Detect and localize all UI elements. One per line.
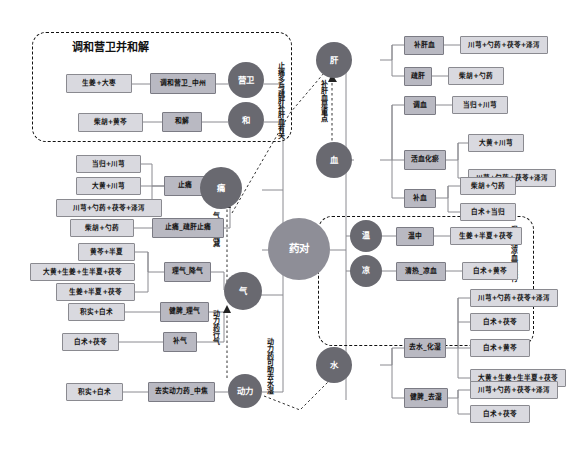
leaf-dahuang-chuanxiong-zhitong[interactable]: 大黄+川芎 [76, 177, 141, 195]
leaf-shengjiang-dazao[interactable]: 生姜+大枣 [66, 74, 132, 93]
leaf-baizhu-huangqin-qushui[interactable]: 白术+黄芩 [470, 339, 530, 357]
hub-gan[interactable]: 肝 [316, 42, 352, 78]
leaf-chaihu-shaoyao-shugan[interactable]: 柴胡+勺药 [70, 219, 134, 237]
leaf-chuanxiong-shaoyao-fuling-zexie-qushui[interactable]: 川芎+勺药+茯苓+泽泻 [470, 289, 558, 307]
hub-dongli[interactable]: 动力 [228, 374, 262, 408]
leaf-chaihu-shaoyao-buxue[interactable]: 柴胡+勺药 [460, 177, 516, 195]
func-buganxue[interactable]: 补肝血 [404, 36, 444, 55]
arrow-head-qi [223, 305, 231, 313]
func-huoxue-huayu[interactable]: 活血化瘀 [404, 150, 446, 170]
leaf-baizhu-fuling-buqi[interactable]: 白术+茯苓 [62, 333, 119, 351]
leaf-chuanxiong-shaoyao-fuling-zexie-zhitong[interactable]: 川芎+勺药+茯苓+泽泻 [56, 199, 162, 217]
annotation-qushuishi: 动力药可助去水湿 [266, 338, 273, 424]
hub-qi[interactable]: 气 [224, 272, 262, 310]
annotation-donglixingqi: 动力药行气 [212, 310, 219, 372]
leaf-chaihu-huangqin-he[interactable]: 柴胡+黄芩 [78, 113, 143, 132]
func-tiaoxue[interactable]: 调血 [404, 96, 436, 115]
func-zhitong-shuganzhitong[interactable]: 止痛_疏肝止痛 [152, 218, 224, 238]
func-hejie[interactable]: 和解 [162, 112, 202, 132]
leaf-dahuang-shengjiang-shengbanxia-fuling-liqi[interactable]: 大黄+生姜+生半夏+茯苓 [30, 263, 135, 281]
diagram-canvas: 调和营卫并和解 温中和凉血同进行 止痛多与疏肝补肝血有关 补肝血是重点 气通则痛… [0, 0, 570, 459]
hub-tong[interactable]: 痛 [200, 167, 242, 209]
hub-center-yaodui[interactable]: 药对 [268, 218, 330, 280]
leaf-baizhu-fuling-jianpi[interactable]: 白术+茯苓 [470, 405, 530, 423]
func-buxue[interactable]: 补血 [404, 189, 436, 208]
func-tiaohe-yingwei-zhongzhou[interactable]: 调和营卫_中州 [150, 73, 216, 94]
leaf-baizhu-huangqin-liangxue[interactable]: 白术+黄芩 [462, 262, 518, 280]
func-qingre-liangxue[interactable]: 清热_凉血 [396, 262, 446, 281]
func-jianpi-qushi[interactable]: 健脾_去湿 [404, 388, 448, 408]
leaf-baizhu-danggui-buxue[interactable]: 白术+当归 [460, 203, 516, 221]
func-qushui-huashi[interactable]: 去水_化湿 [404, 338, 446, 358]
leaf-shengjiang-banxia-fuling-liqi[interactable]: 生姜+半夏+茯苓 [56, 283, 135, 301]
leaf-dahuang-chuanxiong-huoxue[interactable]: 大黄+川芎 [468, 134, 524, 152]
hub-xue[interactable]: 血 [316, 142, 352, 178]
leaf-chaihu-shaoyao-shugan-right[interactable]: 柴胡+勺药 [448, 67, 504, 85]
leaf-danggui-chuanxiong-tiaoxue[interactable]: 当归+川芎 [452, 96, 508, 114]
annotation-zhitong: 止痛多与疏肝补肝血有关 [277, 62, 284, 192]
leaf-huangqin-banxia[interactable]: 黄芩+半夏 [78, 243, 135, 261]
hub-yingwei[interactable]: 营卫 [228, 62, 264, 98]
hub-wen[interactable]: 温 [350, 220, 382, 252]
leaf-baizhu-fuling-qushui[interactable]: 白术+茯苓 [470, 313, 530, 331]
hub-shui[interactable]: 水 [316, 347, 352, 383]
func-qushi-donglii-zhongjiao[interactable]: 去实动力药_中焦 [148, 382, 215, 402]
leaf-chuanxiong-shaoyao-fuling-zexie-jianpi[interactable]: 川芎+勺药+茯苓+泽泻 [470, 381, 558, 399]
func-jianpi-liqi[interactable]: 健脾_理气 [160, 302, 209, 322]
func-shugan[interactable]: 疏肝 [404, 67, 432, 86]
func-liqi-jiangqi[interactable]: 理气_降气 [164, 262, 211, 282]
func-wenzhong[interactable]: 温中 [396, 227, 434, 246]
leaf-zhishi-baizhu-jianpi[interactable]: 积实+白术 [68, 303, 125, 321]
left-group-title: 调和营卫并和解 [72, 38, 149, 54]
hub-liang[interactable]: 凉 [350, 255, 382, 287]
func-buqi[interactable]: 补气 [163, 332, 197, 352]
leaf-zhishi-baizhu-dongli[interactable]: 积实+白术 [66, 383, 123, 401]
leaf-danggui-chuanxiong-zhitong[interactable]: 当归+川芎 [76, 155, 141, 173]
leaf-shengjiang-banxia-fuling-wenzhong[interactable]: 生姜+半夏+茯苓 [450, 227, 522, 245]
hub-he[interactable]: 和 [228, 102, 264, 138]
leaf-chuanxiong-shaoyao-fuling-zexie-buganxue[interactable]: 川芎+勺药+茯苓+泽泻 [460, 36, 548, 54]
